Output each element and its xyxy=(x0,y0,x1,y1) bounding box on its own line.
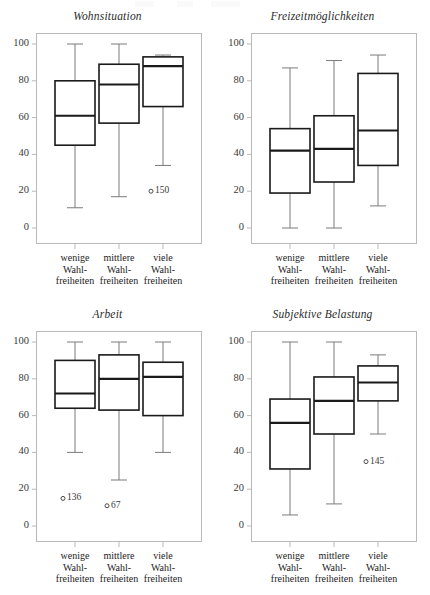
outlier-marker xyxy=(149,189,153,193)
box-rect xyxy=(55,81,95,145)
box-rect xyxy=(358,73,398,165)
boxplot-box xyxy=(55,342,95,452)
box-rect xyxy=(99,355,139,410)
boxplot-box xyxy=(358,355,398,434)
outlier-marker xyxy=(105,504,109,508)
box-rect xyxy=(55,360,95,408)
boxplot-box xyxy=(270,342,310,515)
box-rect xyxy=(143,57,183,107)
box-rect xyxy=(99,64,139,123)
panel-2: Freizeitmöglichkeiten100806040200wenigeW… xyxy=(215,0,430,297)
plot-drawing-layer xyxy=(0,0,215,297)
plot-drawing-layer xyxy=(215,0,430,297)
plot-drawing-layer xyxy=(215,298,430,595)
box-rect xyxy=(314,377,354,434)
panel-4: Subjektive Belastung100806040200wenigeWa… xyxy=(215,298,430,595)
panel-3: Arbeit100806040200wenigeWahl-freiheitenm… xyxy=(0,298,215,595)
boxplot-box xyxy=(358,55,398,206)
boxplot-figure: Wohnsituation100806040200wenigeWahl-frei… xyxy=(0,0,430,595)
boxplot-box xyxy=(99,342,139,480)
boxplot-box xyxy=(314,342,354,504)
boxplot-box xyxy=(143,342,183,452)
boxplot-box xyxy=(99,44,139,197)
panel-1: Wohnsituation100806040200wenigeWahl-frei… xyxy=(0,0,215,297)
plot-drawing-layer xyxy=(0,298,215,595)
boxplot-box xyxy=(270,68,310,228)
outlier-marker xyxy=(61,496,65,500)
outlier-marker xyxy=(364,460,368,464)
box-rect xyxy=(143,362,183,415)
boxplot-box xyxy=(55,44,95,208)
box-rect xyxy=(270,129,310,193)
boxplot-box xyxy=(143,55,183,165)
boxplot-box xyxy=(314,61,354,228)
box-rect xyxy=(270,399,310,469)
